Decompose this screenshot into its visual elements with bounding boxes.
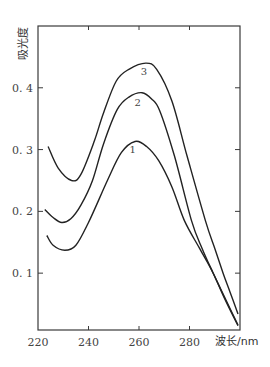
- series-label-3: 3: [141, 66, 147, 77]
- x-axis-title: 波长/nm: [215, 335, 258, 348]
- axis-ticks: [38, 26, 240, 330]
- series-line-2: [45, 93, 238, 325]
- series-label-2: 2: [135, 97, 141, 108]
- y-tick-label: 0. 4: [12, 82, 33, 95]
- series-label-1: 1: [130, 144, 136, 155]
- absorbance-chart: 2202402602800. 10. 20. 30. 4 123 吸光度 波长/…: [0, 0, 270, 367]
- series-line-3: [48, 63, 238, 314]
- series-group: [45, 63, 238, 326]
- x-tick-label: 240: [78, 336, 99, 349]
- y-tick-label: 0. 2: [12, 205, 33, 218]
- axis-tick-labels: 2202402602800. 10. 20. 30. 4: [12, 82, 200, 349]
- y-tick-label: 0. 1: [12, 267, 33, 280]
- y-axis-title: 吸光度: [16, 27, 30, 60]
- x-tick-label: 260: [129, 336, 150, 349]
- y-tick-label: 0. 3: [12, 144, 33, 157]
- plot-frame: [38, 26, 240, 330]
- x-tick-label: 280: [179, 336, 200, 349]
- x-tick-label: 220: [28, 336, 49, 349]
